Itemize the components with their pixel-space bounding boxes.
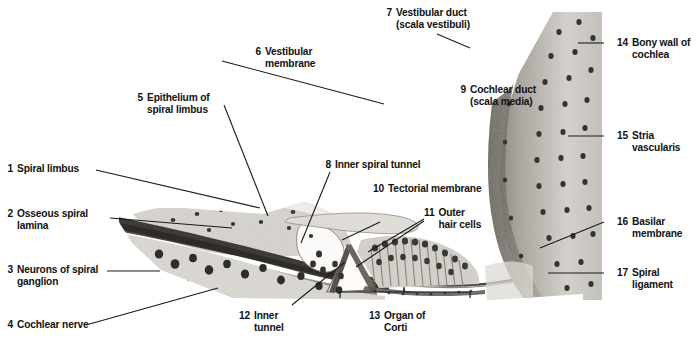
label-12-number: 12 [239,310,254,322]
figure-canvas: 1 Spiral limbus 2 Osseous spiral lamina … [0,0,697,347]
label-17-number: 17 [617,267,632,279]
label-1-spiral-limbus[interactable]: 1 Spiral limbus [4,163,79,175]
label-1-text: Spiral limbus [17,163,79,175]
label-6-vestibular-membrane[interactable]: 6 Vestibular membrane [252,46,315,71]
label-7-text: Vestibular duct (scala vestibuli) [396,7,470,32]
label-9-number: 9 [457,84,470,96]
label-3-text: Neurons of spiral ganglion [17,264,98,289]
label-15-number: 15 [617,130,632,142]
label-11-text: Outer hair cells [438,207,481,232]
label-11-number: 11 [424,207,438,219]
label-8-inner-spiral-tunnel[interactable]: 8 Inner spiral tunnel [322,159,420,171]
label-14-number: 14 [617,37,632,49]
label-13-number: 13 [369,310,384,322]
label-8-text: Inner spiral tunnel [335,159,420,171]
label-5-epithelium-of-spiral-limbus[interactable]: 5 Epithelium of spiral limbus [134,92,210,117]
label-9-text: Cochlear duct (scala media) [470,84,536,109]
label-12-inner-tunnel[interactable]: 12 Inner tunnel [239,310,284,335]
label-12-text: Inner tunnel [254,310,284,335]
label-16-text: Basilar membrane [632,216,682,241]
label-4-text: Cochlear nerve [17,319,89,331]
label-10-text: Tectorial membrane [388,183,481,195]
label-6-number: 6 [252,46,265,58]
label-6-text: Vestibular membrane [265,46,315,71]
label-17-text: Spiral ligament [632,267,673,292]
label-9-cochlear-duct[interactable]: 9 Cochlear duct (scala media) [457,84,536,109]
label-11-outer-hair-cells[interactable]: 11 Outer hair cells [424,207,481,232]
label-2-text: Osseous spiral lamina [17,208,88,233]
label-15-stria-vascularis[interactable]: 15 Stria vascularis [617,130,680,155]
label-14-bony-wall-of-cochlea[interactable]: 14 Bony wall of cochlea [617,37,690,62]
label-13-organ-of-corti[interactable]: 13 Organ of Corti [369,310,425,335]
label-7-number: 7 [383,7,396,19]
label-13-text: Organ of Corti [384,310,425,335]
label-3-neurons-of-spiral-ganglion[interactable]: 3 Neurons of spiral ganglion [4,264,98,289]
cochlea-micrograph [113,8,602,307]
label-8-number: 8 [322,159,335,171]
label-4-cochlear-nerve[interactable]: 4 Cochlear nerve [4,319,89,331]
label-10-tectorial-membrane[interactable]: 10 Tectorial membrane [373,183,481,195]
label-16-basilar-membrane[interactable]: 16 Basilar membrane [617,216,682,241]
label-5-number: 5 [134,92,147,104]
label-15-text: Stria vascularis [632,130,680,155]
label-2-number: 2 [4,208,17,220]
label-14-text: Bony wall of cochlea [632,37,690,62]
label-4-number: 4 [4,319,17,331]
label-2-osseous-spiral-lamina[interactable]: 2 Osseous spiral lamina [4,208,88,233]
label-17-spiral-ligament[interactable]: 17 Spiral ligament [617,267,673,292]
label-3-number: 3 [4,264,17,276]
label-7-vestibular-duct[interactable]: 7 Vestibular duct (scala vestibuli) [383,7,470,32]
label-1-number: 1 [4,163,17,175]
label-5-text: Epithelium of spiral limbus [147,92,210,117]
label-10-number: 10 [373,183,388,195]
label-16-number: 16 [617,216,632,228]
